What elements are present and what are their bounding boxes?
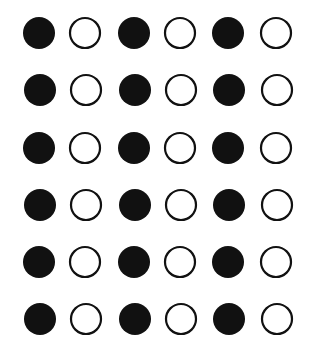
filled-circle-icon <box>119 189 151 221</box>
filled-circle-icon <box>213 74 245 106</box>
open-circle-icon <box>262 304 292 334</box>
open-circle-icon <box>166 75 196 105</box>
filled-circle-icon <box>23 246 55 278</box>
open-circle-icon <box>71 304 101 334</box>
open-circle-icon <box>165 247 195 277</box>
filled-circle-icon <box>24 303 56 335</box>
open-circle-icon <box>71 190 101 220</box>
open-circle-icon <box>165 18 195 48</box>
open-circle-icon <box>70 133 100 163</box>
circle-row-5 <box>23 246 291 278</box>
open-circle-icon <box>262 75 292 105</box>
filled-circle-icon <box>24 189 56 221</box>
filled-circle-icon <box>212 246 244 278</box>
open-circle-icon <box>261 133 291 163</box>
open-circle-icon <box>261 247 291 277</box>
circle-row-1 <box>23 17 291 49</box>
filled-circle-icon <box>23 17 55 49</box>
circle-row-6 <box>24 303 292 335</box>
open-circle-icon <box>71 75 101 105</box>
circle-row-4 <box>24 189 292 221</box>
filled-circle-icon <box>212 132 244 164</box>
filled-circle-icon <box>213 189 245 221</box>
open-circle-icon <box>166 304 196 334</box>
filled-circle-icon <box>24 74 56 106</box>
open-circle-icon <box>165 133 195 163</box>
filled-circle-icon <box>118 246 150 278</box>
filled-circle-icon <box>212 17 244 49</box>
filled-circle-icon <box>119 74 151 106</box>
circle-row-2 <box>24 74 292 106</box>
open-circle-icon <box>166 190 196 220</box>
open-circle-icon <box>262 190 292 220</box>
open-circle-icon <box>261 18 291 48</box>
filled-circle-icon <box>119 303 151 335</box>
open-circle-icon <box>70 18 100 48</box>
circle-row-3 <box>23 132 291 164</box>
filled-circle-icon <box>23 132 55 164</box>
open-circle-icon <box>70 247 100 277</box>
filled-circle-icon <box>213 303 245 335</box>
circle-grid <box>0 0 313 354</box>
filled-circle-icon <box>118 17 150 49</box>
filled-circle-icon <box>118 132 150 164</box>
